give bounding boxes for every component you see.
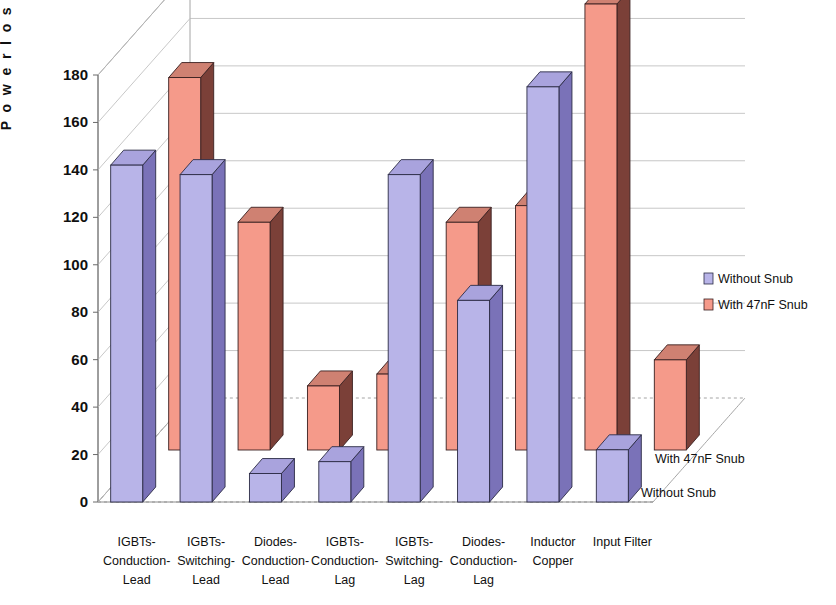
y-axis-tick-label: 0 [80, 493, 88, 510]
x-axis-category-label: IGBTs- [395, 535, 433, 549]
bar-without-snub [388, 160, 433, 502]
y-axis-tick-label: 140 [63, 161, 88, 178]
y-axis-tick-label: 100 [63, 256, 88, 273]
depth-axis-label: With 47nF Snub [655, 452, 745, 466]
bars-group [111, 0, 700, 502]
y-axis-tick-label: 20 [71, 446, 88, 463]
bar-without-snub [249, 459, 294, 502]
y-axis-tick-label: 60 [71, 351, 88, 368]
y-axis-title: P o w e r l o s s ( W ) [0, 0, 15, 150]
legend-item[interactable]: Without Snub [704, 272, 793, 286]
bar-with-47nf-snub [307, 371, 352, 450]
y-axis-tick-label: 180 [63, 66, 88, 83]
x-axis-category-label: Lag [473, 573, 494, 587]
x-axis-category-label: Lead [123, 573, 151, 587]
bar-without-snub [180, 160, 225, 502]
depth-axis-labels: With 47nF SnubWithout Snub [641, 452, 745, 500]
x-axis-category-label: Input Filter [593, 535, 652, 549]
legend: Without SnubWith 47nF Snub [704, 272, 808, 312]
y-axis-tick-label: 120 [63, 208, 88, 225]
x-axis-category-label: Conduction- [242, 554, 309, 568]
y-axis-title-text: P o w e r l o s s ( W ) [0, 0, 14, 130]
bar-with-47nf-snub [585, 0, 630, 450]
x-axis-category-label: IGBTs- [118, 535, 156, 549]
x-axis-category-label: Inductor [530, 535, 575, 549]
bar-without-snub [458, 285, 503, 502]
y-axis-tick-label: 40 [71, 398, 88, 415]
x-axis-category-label: Lag [334, 573, 355, 587]
x-axis-category-label: Switching- [385, 554, 443, 568]
bar-without-snub [596, 435, 641, 502]
bar-without-snub [319, 447, 364, 502]
x-axis-category-label: Diodes- [254, 535, 297, 549]
depth-axis-label: Without Snub [641, 486, 716, 500]
x-axis-category-label: Lag [404, 573, 425, 587]
chart-canvas: 020406080100120140160180 IGBTs-Conductio… [0, 0, 836, 605]
x-axis-category-label: Conduction- [450, 554, 517, 568]
x-axis-category-label: Conduction- [311, 554, 378, 568]
legend-label: With 47nF Snub [718, 298, 808, 312]
x-axis-category-label: IGBTs- [326, 535, 364, 549]
x-axis-category-label: Switching- [177, 554, 235, 568]
power-loss-3d-bar-chart: P o w e r l o s s ( W ) 0204060801001201… [0, 0, 836, 605]
x-axis-category-label: Conduction- [103, 554, 170, 568]
y-axis-ticks: 020406080100120140160180 [63, 66, 98, 510]
x-axis-labels: IGBTs-Conduction-LeadIGBTs-Switching-Lea… [103, 535, 652, 587]
bar-without-snub [527, 72, 572, 502]
bar-with-47nf-snub [654, 345, 699, 450]
x-axis-category-label: Lead [262, 573, 290, 587]
x-axis-category-label: Lead [192, 573, 220, 587]
legend-label: Without Snub [718, 272, 793, 286]
y-axis-tick-label: 80 [71, 303, 88, 320]
y-axis-tick-label: 160 [63, 113, 88, 130]
bar-with-47nf-snub [238, 207, 283, 450]
x-axis-category-label: IGBTs- [187, 535, 225, 549]
x-axis-category-label: Diodes- [462, 535, 505, 549]
legend-item[interactable]: With 47nF Snub [704, 298, 808, 312]
x-axis-category-label: Copper [532, 554, 573, 568]
bar-without-snub [111, 150, 156, 502]
